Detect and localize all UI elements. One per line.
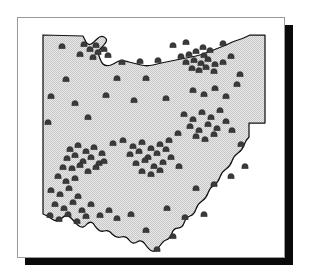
mound-marker [75,194,81,199]
mound-marker [196,128,202,133]
mound-marker [168,155,174,160]
mound-marker [211,132,217,137]
mound-marker [77,163,83,168]
mound-marker [97,213,103,218]
mound-marker [238,142,244,147]
mound-marker [164,206,170,211]
mound-marker [148,172,154,177]
mound-marker [229,128,235,133]
mound-marker [48,94,54,99]
mound-marker [55,174,61,179]
mound-marker [142,158,148,163]
mound-marker [181,112,187,117]
mound-marker [183,60,189,65]
mound-marker [143,228,149,233]
mound-marker [139,169,145,174]
mound-marker [99,151,105,156]
mound-marker [214,126,220,131]
mound-marker [175,131,181,136]
mound-marker [57,192,63,197]
mound-marker [139,140,145,145]
mound-marker [178,54,184,59]
mound-marker [45,120,51,125]
mound-marker [77,52,83,57]
mound-marker [190,88,196,93]
mound-marker [211,69,217,74]
mound-marker [72,176,78,181]
mound-marker [59,44,65,49]
mound-marker [205,57,211,62]
mound-marker [101,47,107,52]
mound-marker [114,76,120,81]
mound-marker [155,58,161,63]
screenshot-root [0,0,311,277]
mound-marker [242,164,248,169]
mound-marker [61,206,67,211]
mound-marker [56,217,62,222]
mound-marker [191,58,197,63]
mound-marker [183,40,189,45]
mound-marker [130,144,136,149]
mound-marker [136,149,142,154]
mound-marker [60,165,66,170]
mound-marker [63,77,69,82]
mound-marker [101,159,107,164]
mound-marker [48,188,54,193]
mound-marker [200,45,206,50]
mound-marker [79,208,85,213]
mound-marker [187,124,193,129]
mound-marker [75,143,81,148]
mound-marker [189,66,195,71]
mound-marker [85,115,91,120]
mound-marker [72,153,78,158]
mound-marker [234,82,240,87]
mound-marker [212,62,218,67]
mound-marker [198,61,204,66]
mound-marker [228,174,234,179]
mound-marker [128,212,134,217]
mound-marker [63,179,69,184]
mound-marker [66,186,72,191]
mound-marker [103,93,109,98]
mound-marker [93,43,99,48]
mound-marker [202,137,208,142]
mound-marker [190,117,196,122]
mound-marker [83,214,89,219]
mound-marker [74,219,80,224]
mound-marker [90,55,96,60]
mound-marker [166,138,172,143]
mound-marker [88,155,94,160]
mound-marker [47,213,53,218]
mound-marker [237,72,243,77]
mound-marker [220,60,226,65]
mound-marker [170,43,176,48]
mound-marker [151,164,157,169]
mound-marker [65,212,71,217]
mound-marker [207,48,213,53]
mound-marker [199,110,205,115]
mound-marker [212,86,218,91]
mound-marker [193,49,199,54]
mound-marker [83,149,89,154]
mound-marker [205,122,211,127]
mound-marker [81,42,87,47]
mound-marker [208,115,214,120]
mound-marker [133,161,139,166]
mound-marker [157,168,163,173]
mound-marker [160,160,166,165]
mound-marker [106,208,112,213]
mound-marker [143,76,149,81]
mound-marker [196,68,202,73]
mound-marker [163,96,169,101]
mound-marker [127,152,133,157]
mound-marker [85,169,91,174]
mound-marker [148,146,154,151]
mound-marker [88,202,94,207]
ohio-distribution-map-svg [18,18,286,259]
mound-marker [154,247,160,252]
mound-marker [137,59,143,64]
mound-marker [186,52,192,57]
mound-marker [217,108,223,113]
mound-marker [114,216,120,221]
mound-marker [170,234,176,239]
